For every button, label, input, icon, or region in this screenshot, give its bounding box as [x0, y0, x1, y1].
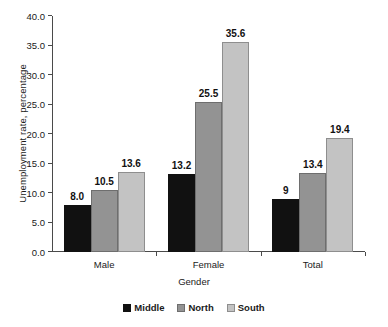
y-tick-mark — [48, 133, 52, 134]
y-tick-mark — [48, 104, 52, 105]
bar-female-north — [195, 102, 222, 252]
x-tick-mark — [156, 252, 157, 256]
x-tick-mark — [261, 252, 262, 256]
bar-value-label: 35.6 — [216, 29, 255, 39]
x-category-label-total: Total — [261, 259, 365, 270]
x-category-label-female: Female — [156, 259, 260, 270]
y-tick-mark — [48, 45, 52, 46]
x-tick-mark — [365, 252, 366, 256]
x-category-label-male: Male — [52, 259, 156, 270]
legend-label: South — [238, 302, 265, 313]
legend-swatch-middle — [123, 304, 131, 312]
legend-item-south[interactable]: South — [227, 302, 265, 313]
bar-value-label: 19.4 — [320, 125, 359, 135]
bar-male-middle — [64, 205, 91, 252]
y-tick-label: 5.0 — [4, 218, 45, 228]
y-tick-mark — [48, 192, 52, 193]
bar-total-middle — [272, 199, 299, 252]
y-tick-label: 20.0 — [4, 130, 45, 140]
bar-chart: Unemployment rate, percentage 0.05.010.0… — [0, 0, 388, 327]
legend-swatch-south — [227, 304, 235, 312]
legend-item-north[interactable]: North — [177, 302, 213, 313]
y-tick-mark — [48, 222, 52, 223]
bar-female-south — [222, 42, 249, 252]
bar-male-north — [91, 190, 118, 252]
bar-female-middle — [168, 174, 195, 252]
bar-total-south — [326, 138, 353, 252]
plot-area: 0.05.010.015.020.025.030.035.040.0 8.010… — [52, 16, 365, 252]
y-tick-label: 10.0 — [4, 189, 45, 199]
y-tick-mark — [48, 15, 52, 16]
y-axis-line — [52, 16, 53, 252]
chart-legend: MiddleNorthSouth — [0, 302, 388, 313]
legend-label: Middle — [134, 302, 164, 313]
legend-item-middle[interactable]: Middle — [123, 302, 164, 313]
x-axis-title: Gender — [0, 276, 388, 287]
y-tick-label: 35.0 — [4, 41, 45, 51]
y-tick-label: 0.0 — [4, 248, 45, 258]
legend-label: North — [188, 302, 213, 313]
bar-total-north — [299, 173, 326, 252]
bar-male-south — [118, 172, 145, 252]
y-tick-label: 30.0 — [4, 71, 45, 81]
y-tick-mark — [48, 74, 52, 75]
y-tick-label: 40.0 — [4, 12, 45, 22]
y-tick-mark — [48, 163, 52, 164]
bar-value-label: 13.6 — [112, 159, 151, 169]
y-tick-label: 15.0 — [4, 159, 45, 169]
y-tick-mark — [48, 251, 52, 252]
legend-swatch-north — [177, 304, 185, 312]
y-tick-label: 25.0 — [4, 100, 45, 110]
